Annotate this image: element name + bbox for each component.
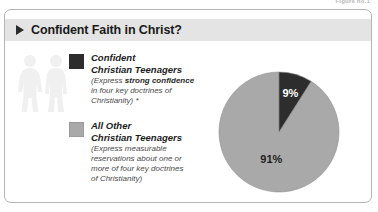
legend-swatch-dark-icon (69, 54, 84, 69)
legend-sub-line3: more of four key doctrines (91, 164, 209, 174)
legend-subtext: (Express strong confidence in four key d… (91, 76, 209, 106)
legend-title-line1: Confident (91, 52, 209, 64)
legend-title-line2: Christian Teenagers (91, 132, 209, 144)
legend-sub-line3: Christianity) * (91, 96, 209, 106)
legend-item-text: All Other Christian Teenagers (Express m… (91, 120, 209, 184)
legend-sub-line1: (Express measurable (91, 144, 209, 154)
legend-sub-prefix: (Express (91, 76, 125, 85)
chart-legend: Confident Christian Teenagers (Express s… (69, 52, 209, 184)
figure-caption: Figure no.1 (335, 0, 370, 5)
legend-sub-line2: in four key doctrines of (91, 86, 209, 96)
legend-item-confident: Confident Christian Teenagers (Express s… (69, 52, 209, 106)
pie-slice-label-all-other: 91% (260, 153, 282, 165)
legend-subtext: (Express measurable reservations about o… (91, 144, 209, 184)
legend-item-all-other: All Other Christian Teenagers (Express m… (69, 120, 209, 184)
legend-item-text: Confident Christian Teenagers (Express s… (91, 52, 209, 106)
pie-chart: 9% 91% (215, 68, 343, 196)
legend-sub-line2: reservations about one or (91, 154, 209, 164)
legend-title-line2: Christian Teenagers (91, 64, 209, 76)
page-title: Confident Faith in Christ? (31, 23, 182, 37)
two-people-silhouette-icon (13, 52, 73, 114)
pie-slices (219, 72, 339, 192)
legend-swatch-light-icon (69, 122, 84, 137)
pie-slice-label-confident: 9% (282, 87, 298, 99)
legend-sub-emphasis: strong confidence (125, 76, 194, 85)
legend-title-line1: All Other (91, 120, 209, 132)
panel-header: Confident Faith in Christ? (5, 19, 371, 41)
chart-panel: Confident Faith in Christ? Confident Chr… (4, 9, 372, 203)
legend-sub-line4: of Christianity) (91, 174, 209, 184)
triangle-right-icon (16, 25, 24, 35)
